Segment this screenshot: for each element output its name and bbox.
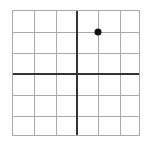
grid-plot-area (12, 10, 140, 136)
x-axis-line (13, 73, 139, 75)
data-point-marker (95, 29, 102, 36)
coordinate-plane-figure (0, 0, 146, 145)
